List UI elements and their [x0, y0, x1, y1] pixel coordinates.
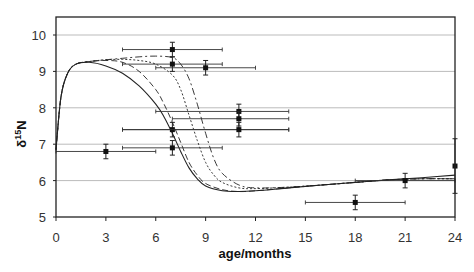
y-tick-label: 8 [39, 101, 46, 116]
x-tick-label: 3 [102, 230, 109, 245]
x-tick-label: 12 [248, 230, 262, 245]
x-tick-label: 21 [398, 230, 412, 245]
data-point [172, 111, 288, 126]
y-axis-label: δ15N [13, 120, 29, 147]
data-point [123, 141, 223, 156]
y-tick-label: 9 [39, 64, 46, 79]
point-marker [203, 65, 208, 70]
gridlines [56, 35, 455, 181]
y-tick-label: 10 [32, 28, 46, 43]
chart: 03691215182124 5678910 age/months δ15N [0, 0, 474, 272]
curve-dotted [56, 59, 455, 188]
point-marker [403, 178, 408, 183]
x-tick-label: 6 [152, 230, 159, 245]
model-curves [56, 56, 455, 191]
y-axis-ticks: 5678910 [32, 28, 56, 225]
curve-dashed [56, 60, 455, 191]
data-point [156, 104, 289, 119]
data-point [305, 195, 405, 210]
point-marker [353, 200, 358, 205]
y-tick-label: 7 [39, 137, 46, 152]
x-tick-label: 9 [202, 230, 209, 245]
point-marker [236, 116, 241, 121]
data-point [355, 173, 455, 188]
x-tick-label: 0 [52, 230, 59, 245]
curve-dashdot [56, 56, 455, 188]
data-point [123, 42, 223, 57]
x-axis-ticks: 03691215182124 [52, 217, 462, 245]
point-marker [170, 47, 175, 52]
curve-solid [56, 62, 455, 191]
y-tick-label: 6 [39, 174, 46, 189]
x-axis-label: age/months [219, 246, 292, 261]
data-points [56, 42, 458, 209]
x-tick-label: 15 [298, 230, 312, 245]
point-marker [170, 145, 175, 150]
plot-frame [56, 17, 455, 217]
point-marker [103, 149, 108, 154]
svg-text:δ15N: δ15N [13, 120, 29, 147]
data-point [56, 144, 156, 159]
x-tick-label: 24 [448, 230, 462, 245]
y-tick-label: 5 [39, 210, 46, 225]
point-marker [170, 62, 175, 67]
x-tick-label: 18 [348, 230, 362, 245]
point-marker [236, 127, 241, 132]
